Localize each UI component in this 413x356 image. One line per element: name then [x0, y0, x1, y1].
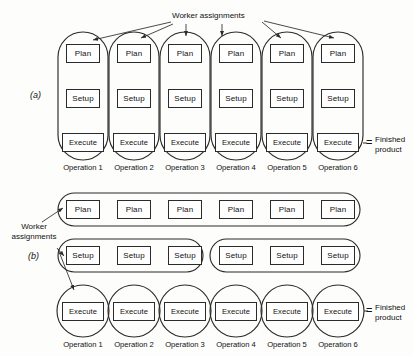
cell-plan-op3: Plan	[168, 44, 202, 63]
cell-b-plan-op1: Plan	[66, 200, 100, 219]
finished-line2-b: product	[375, 313, 405, 323]
worker-assignments-label-top: Worker assignments	[172, 11, 245, 20]
panel-b-setup-capsules	[58, 239, 360, 272]
cell-plan-op5: Plan	[270, 44, 304, 63]
worker-assignments-left-line2: assignments	[8, 232, 60, 242]
cell-execute-op2: Execute	[113, 133, 155, 152]
cell-setup-op4: Setup	[219, 89, 253, 108]
op-label-b-4: Operation 4	[208, 340, 264, 349]
cell-b-setup-op4: Setup	[219, 246, 253, 265]
cell-b-execute-op3: Execute	[164, 302, 206, 321]
cell-b-plan-op5: Plan	[270, 200, 304, 219]
worker-assignments-left-line1: Worker	[8, 222, 60, 232]
finished-line1-b: Finished	[375, 303, 405, 313]
cell-b-plan-op2: Plan	[117, 200, 151, 219]
worker-arrow-a2	[141, 24, 173, 38]
op-label-a-4: Operation 4	[208, 163, 264, 172]
worker-arrow-a1	[93, 22, 171, 40]
cell-plan-op6: Plan	[321, 44, 355, 63]
panel-a-arrows	[93, 21, 334, 40]
cell-execute-op5: Execute	[266, 133, 308, 152]
op-label-b-2: Operation 2	[106, 340, 162, 349]
cell-setup-op2: Setup	[117, 89, 151, 108]
cell-b-execute-op6: Execute	[317, 302, 359, 321]
cell-b-execute-op2: Execute	[113, 302, 155, 321]
cell-setup-op5: Setup	[270, 89, 304, 108]
cell-b-plan-op3: Plan	[168, 200, 202, 219]
cell-setup-op6: Setup	[321, 89, 355, 108]
panel-a-letter: (a)	[30, 90, 41, 100]
cell-b-setup-op2: Setup	[117, 246, 151, 265]
op-label-a-5: Operation 5	[259, 163, 315, 172]
panel-b-letter: (b)	[28, 251, 39, 261]
cell-b-setup-op6: Setup	[321, 246, 355, 265]
op-label-b-1: Operation 1	[55, 340, 111, 349]
op-label-b-3: Operation 3	[157, 340, 213, 349]
cell-plan-op2: Plan	[117, 44, 151, 63]
cell-b-setup-op5: Setup	[270, 246, 304, 265]
finished-product-label-b: Finished product	[375, 303, 405, 323]
equals-sign-a: =	[366, 136, 372, 148]
equals-sign-b: =	[366, 304, 372, 316]
finished-line1-a: Finished	[375, 135, 405, 145]
op-label-a-3: Operation 3	[157, 163, 213, 172]
cell-b-setup-op3: Setup	[168, 246, 202, 265]
op-label-b-5: Operation 5	[259, 340, 315, 349]
cell-execute-op1: Execute	[62, 133, 104, 152]
panel-b-plan-capsule	[58, 193, 360, 226]
cell-setup-op3: Setup	[168, 89, 202, 108]
worker-assignments-label-left: Worker assignments	[8, 222, 60, 242]
cell-b-execute-op5: Execute	[266, 302, 308, 321]
cell-b-plan-op4: Plan	[219, 200, 253, 219]
cell-setup-op1: Setup	[66, 89, 100, 108]
worker-assignment-figure: (a) Worker assignments Plan Setup Execut…	[0, 0, 413, 356]
cell-b-plan-op6: Plan	[321, 200, 355, 219]
worker-arrow-b-plan	[42, 208, 63, 222]
cell-execute-op3: Execute	[164, 133, 206, 152]
cell-b-setup-op1: Setup	[66, 246, 100, 265]
op-label-b-6: Operation 6	[310, 340, 366, 349]
op-label-a-1: Operation 1	[55, 163, 111, 172]
cell-b-execute-op4: Execute	[215, 302, 257, 321]
finished-line2-a: product	[375, 145, 405, 155]
op-label-a-2: Operation 2	[106, 163, 162, 172]
worker-capsule-plan-all	[58, 193, 360, 226]
cell-b-execute-op1: Execute	[62, 302, 104, 321]
finished-product-label-a: Finished product	[375, 135, 405, 155]
cell-plan-op1: Plan	[66, 44, 100, 63]
cell-execute-op4: Execute	[215, 133, 257, 152]
cell-execute-op6: Execute	[317, 133, 359, 152]
cell-plan-op4: Plan	[219, 44, 253, 63]
op-label-a-6: Operation 6	[310, 163, 366, 172]
